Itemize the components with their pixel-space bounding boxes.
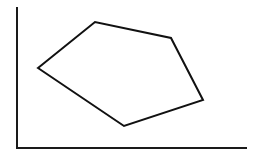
line-drawing-canvas <box>0 0 258 156</box>
figure-container <box>0 0 258 156</box>
canvas-background <box>0 0 258 156</box>
